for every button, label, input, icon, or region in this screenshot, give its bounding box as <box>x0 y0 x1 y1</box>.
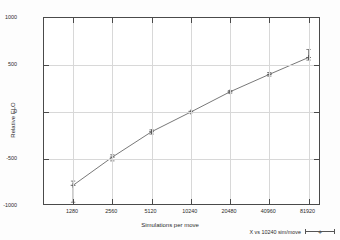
x-axis-tick-label: 1280 <box>66 208 78 214</box>
y-axis-tick-label: 1000 <box>5 14 17 20</box>
y-axis-tick-label: -500 <box>6 155 17 161</box>
x-axis-tick <box>309 199 310 204</box>
x-axis-tick-label: 40960 <box>261 208 276 214</box>
y-axis-tick-label: -1000 <box>3 202 17 208</box>
gridline-vertical <box>73 18 74 204</box>
legend-entry-label: X vs 10240 sim/move <box>249 229 301 235</box>
x-axis-tick <box>191 199 192 204</box>
y-axis-tick-label: 500 <box>8 61 17 67</box>
x-axis-tick <box>309 18 310 23</box>
chart-container: 10005000-500-100012802560512010240204804… <box>0 0 340 240</box>
x-axis-tick-label: 81920 <box>300 208 315 214</box>
x-axis-tick <box>112 199 113 204</box>
gridline-vertical <box>112 18 113 204</box>
y-axis-tick <box>44 159 49 160</box>
x-axis-tick-label: 2560 <box>105 208 117 214</box>
gridline-horizontal <box>44 65 319 66</box>
x-axis-tick-label: 10240 <box>182 208 197 214</box>
x-axis-tick-label: 5120 <box>145 208 157 214</box>
gridline-vertical <box>230 18 231 204</box>
y-axis-tick <box>314 65 319 66</box>
x-axis-tick <box>191 18 192 23</box>
x-axis-tick-label: 20480 <box>222 208 237 214</box>
y-axis-tick <box>314 159 319 160</box>
y-axis-tick <box>314 112 319 113</box>
gridline-horizontal <box>44 112 319 113</box>
gridline-vertical <box>191 18 192 204</box>
y-axis-tick <box>44 112 49 113</box>
x-axis-tick <box>230 18 231 23</box>
gridline-horizontal <box>44 159 319 160</box>
x-axis-tick <box>152 199 153 204</box>
gridline-vertical <box>152 18 153 204</box>
y-axis-title: Relative ELO <box>10 85 16 155</box>
y-axis-tick <box>44 65 49 66</box>
x-axis-tick <box>269 199 270 204</box>
plot-area <box>43 17 320 205</box>
gridline-vertical <box>269 18 270 204</box>
x-axis-tick <box>152 18 153 23</box>
x-axis-tick <box>112 18 113 23</box>
x-axis-tick <box>73 18 74 23</box>
x-axis-tick <box>269 18 270 23</box>
legend-line-sample: + <box>305 228 335 235</box>
gridline-vertical <box>309 18 310 204</box>
chart-legend: X vs 10240 sim/move + <box>249 228 335 235</box>
x-axis-tick <box>230 199 231 204</box>
x-axis-tick <box>73 199 74 204</box>
